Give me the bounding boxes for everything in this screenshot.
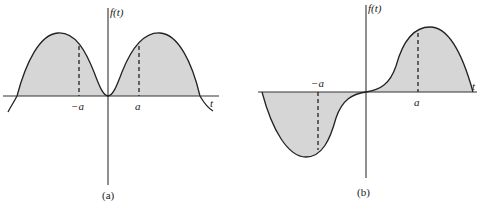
figure-canvas: f(t) t −a a (a) f(t) t −a a (b) [0, 0, 478, 203]
panel-b-tick-pos-a: a [414, 96, 420, 108]
panel-b-y-label: f(t) [368, 2, 382, 15]
panel-b-caption: (b) [357, 186, 370, 199]
panel-b-x-label: t [472, 80, 476, 92]
panel-a: f(t) t −a a (a) [3, 6, 219, 202]
panel-a-caption: (a) [102, 189, 115, 202]
panel-a-x-label: t [210, 97, 214, 109]
panel-a-tick-neg-a: −a [71, 100, 84, 112]
panel-b-shaded-area-positive [366, 27, 473, 92]
panel-b-shaded-area-negative [262, 92, 366, 157]
panel-a-tick-pos-a: a [135, 100, 141, 112]
panel-b: f(t) t −a a (b) [258, 2, 477, 199]
panel-a-y-label: f(t) [110, 6, 124, 19]
panel-b-tick-neg-a: −a [311, 77, 324, 89]
